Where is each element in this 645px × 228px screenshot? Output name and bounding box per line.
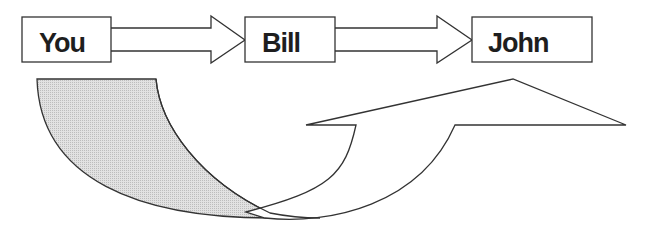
node-bill-label: Bill — [262, 28, 300, 58]
curved-up-arrow — [246, 79, 626, 219]
node-bill: Bill — [245, 17, 335, 62]
arrow-bill-to-john — [335, 16, 472, 63]
flow-diagram: You Bill John — [0, 0, 645, 228]
node-john: John — [472, 17, 592, 62]
node-john-label: John — [488, 28, 549, 58]
node-you-label: You — [39, 28, 85, 58]
shaded-curved-band — [37, 79, 270, 218]
node-you: You — [22, 17, 111, 62]
arrow-you-to-bill — [111, 16, 245, 63]
